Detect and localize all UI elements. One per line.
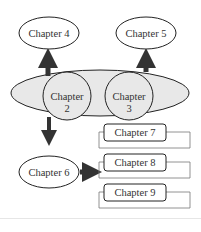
bottom-divider [0, 218, 201, 219]
chapter3-label-line2: 3 [126, 103, 131, 114]
chapter-diagram: Chapter 4 Chapter 5 Chapter 2 Chapter 3 … [0, 0, 201, 232]
chapter8-label: Chapter 8 [114, 157, 155, 168]
chapter7-label: Chapter 7 [114, 127, 155, 138]
chapter4-label: Chapter 4 [28, 28, 70, 39]
chapter6-label: Chapter 6 [28, 167, 69, 178]
chapter2-label-line2: 2 [64, 103, 69, 114]
chapter5-label: Chapter 5 [125, 28, 166, 39]
core-group-ellipse [11, 70, 189, 116]
chapter9-label: Chapter 9 [114, 187, 155, 198]
chapter3-label-line1: Chapter [112, 91, 146, 102]
chapter2-label-line1: Chapter [50, 91, 84, 102]
